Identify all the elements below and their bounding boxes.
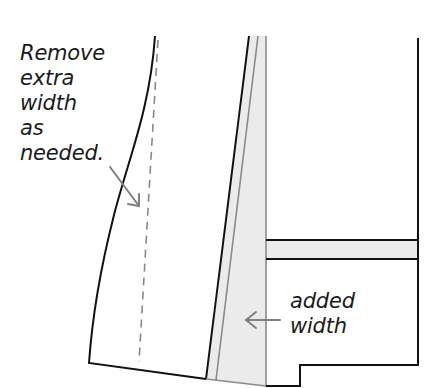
added-label-line-1: added xyxy=(290,289,355,314)
left-piece-outline xyxy=(89,36,206,379)
remove-label-line-1: Remove xyxy=(20,41,105,66)
added-width-label: added width xyxy=(290,289,355,339)
remove-label-line-5: needed. xyxy=(20,141,105,166)
remove-label-line-2: extra xyxy=(20,66,105,91)
added-label-line-2: width xyxy=(290,314,355,339)
remove-extra-width-label: Remove extra width as needed. xyxy=(20,41,105,166)
remove-label-line-3: width xyxy=(20,91,105,116)
remove-arrow-icon xyxy=(110,167,139,206)
band-shading xyxy=(266,240,418,259)
remove-label-line-4: as xyxy=(20,116,105,141)
